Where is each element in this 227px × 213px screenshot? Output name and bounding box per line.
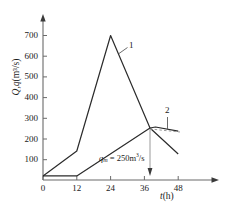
- qm-annotation: qm = 250m3/s: [99, 152, 145, 163]
- qm-value: 250: [117, 153, 130, 163]
- y-axis-title-sep: ,: [11, 86, 21, 88]
- x-tick-label-12: 12: [68, 183, 86, 193]
- y-tick-label-500: 500: [14, 71, 38, 81]
- qm-equals: =: [110, 153, 115, 163]
- curve-1-label: 1: [129, 40, 134, 50]
- y-axis-ticks: [43, 36, 47, 160]
- y-axis-title-q2: q: [11, 81, 21, 86]
- chart-figure: Q,q(m³/s) t(h) 700 600 500 400 300 200 1…: [0, 0, 227, 213]
- curve-1-leader: [119, 48, 128, 54]
- x-tick-label-48: 48: [169, 183, 187, 193]
- y-tick-label-300: 300: [14, 113, 38, 123]
- y-tick-label-600: 600: [14, 51, 38, 61]
- qm-unit-denominator: /s: [139, 153, 145, 163]
- y-tick-label-100: 100: [14, 154, 38, 164]
- peak-dropline: [148, 129, 153, 176]
- curve-2-label: 2: [165, 105, 170, 115]
- x-axis: [43, 177, 219, 182]
- x-tick-label-0: 0: [34, 183, 52, 193]
- y-tick-label-700: 700: [14, 30, 38, 40]
- y-tick-label-200: 200: [14, 134, 38, 144]
- x-tick-label-24: 24: [102, 183, 120, 193]
- x-axis-ticks: [43, 176, 178, 180]
- x-tick-label-36: 36: [135, 183, 153, 193]
- y-axis: [40, 14, 45, 180]
- y-tick-label-400: 400: [14, 92, 38, 102]
- qm-subscript: m: [103, 157, 107, 163]
